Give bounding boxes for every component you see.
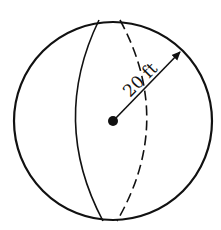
- back-meridian-arc-dashed: [117, 20, 147, 221]
- sphere-diagram: 20 ft: [0, 0, 221, 230]
- front-meridian-arc: [75, 20, 103, 221]
- radius-label: 20 ft: [119, 58, 162, 101]
